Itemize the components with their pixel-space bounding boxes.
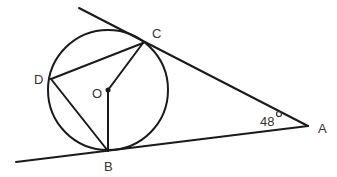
center-point-o [106, 88, 111, 93]
label-c: C [152, 26, 161, 41]
geometry-diagram: C D O B A 48 [0, 0, 337, 177]
label-d: D [34, 72, 43, 87]
label-b: B [104, 159, 113, 174]
angle-a-value: 48 [260, 114, 274, 129]
degree-symbol [277, 112, 282, 117]
tangent-line-ca [79, 8, 308, 126]
label-a: A [318, 121, 327, 136]
label-o: O [92, 86, 102, 101]
tangent-line-ba [16, 126, 308, 162]
